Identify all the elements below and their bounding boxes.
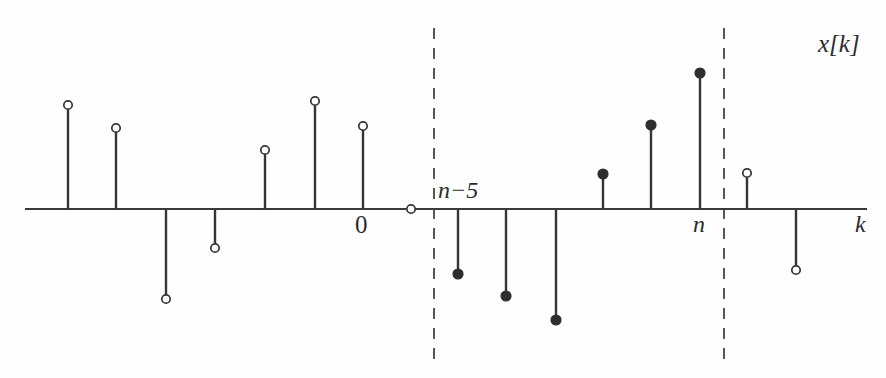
stem-point <box>501 209 511 301</box>
origin-label: 0 <box>355 212 368 237</box>
signal-label: x[k] <box>818 31 860 56</box>
stem-point <box>551 209 561 325</box>
stem-marker-open <box>311 97 319 105</box>
stem-point <box>598 169 608 209</box>
stem-point <box>211 209 219 252</box>
stem-series <box>64 68 800 325</box>
stem-marker-open <box>211 244 219 252</box>
stem-point <box>311 97 319 209</box>
x-axis-label: k <box>855 212 866 236</box>
stem-marker-filled <box>551 315 561 325</box>
stem-marker-open <box>407 205 415 213</box>
stem-marker-open <box>359 122 367 130</box>
stem-point <box>453 209 463 279</box>
stem-point <box>162 209 170 303</box>
stem-point <box>359 122 367 209</box>
stem-point <box>261 146 269 209</box>
stem-point <box>407 205 415 213</box>
stem-marker-filled <box>453 269 463 279</box>
stem-marker-filled <box>646 120 656 130</box>
stem-marker-open <box>112 124 120 132</box>
stem-marker-open <box>792 266 800 274</box>
stem-marker-filled <box>598 169 608 179</box>
stem-marker-open <box>743 169 751 177</box>
stem-point <box>64 101 72 209</box>
stem-point <box>646 120 656 209</box>
stem-marker-filled <box>501 291 511 301</box>
window-end-label: n <box>693 212 705 236</box>
stem-point <box>695 68 705 209</box>
stem-point <box>792 209 800 274</box>
stem-point <box>743 169 751 209</box>
window-start-label: n−5 <box>438 178 478 202</box>
stem-marker-filled <box>695 68 705 78</box>
stem-marker-open <box>162 295 170 303</box>
stem-point <box>112 124 120 209</box>
stem-marker-open <box>64 101 72 109</box>
stem-marker-open <box>261 146 269 154</box>
signal-stem-plot-figure: x[k] 0 n−5 n k <box>0 0 886 378</box>
